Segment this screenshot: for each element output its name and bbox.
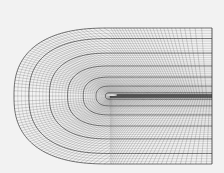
computational-mesh xyxy=(0,0,224,173)
background xyxy=(0,0,224,173)
